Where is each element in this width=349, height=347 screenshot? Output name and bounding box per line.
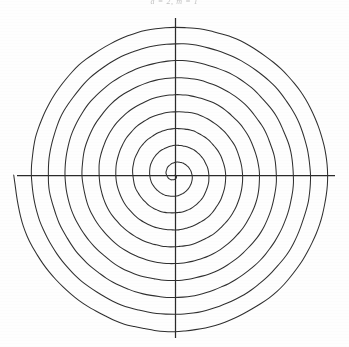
figure-page: a = 2, m = 1 xyxy=(0,0,349,347)
spiral-plot xyxy=(0,0,349,347)
archimedean-spiral-curve xyxy=(14,27,328,331)
spiral-group xyxy=(14,27,328,331)
